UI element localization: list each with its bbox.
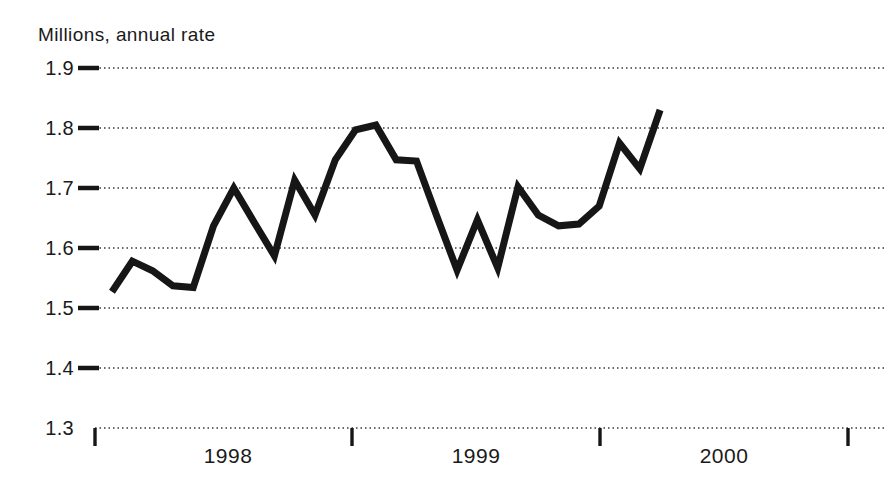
plot-area (0, 0, 891, 495)
chart-container: Millions, annual rate 1.9 1.8 1.7 1.6 1.… (0, 0, 891, 495)
x-tick-marks (95, 428, 848, 446)
data-series-line (112, 110, 660, 292)
y-tick-marks (78, 68, 99, 368)
